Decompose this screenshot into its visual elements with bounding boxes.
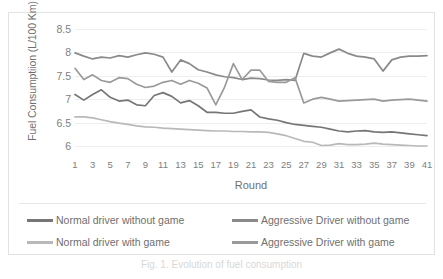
figure-caption: Fig. 1. Evolution of fuel consumption [0, 259, 443, 279]
x-tick-label: 9 [137, 159, 153, 171]
x-tick-label: 35 [366, 159, 382, 171]
x-tick-label: 3 [85, 159, 101, 171]
legend-label: Aggressive Driver without game [261, 214, 409, 226]
legend-swatch-icon [27, 241, 53, 244]
x-tick-label: 23 [261, 159, 277, 171]
x-tick-label: 29 [313, 159, 329, 171]
x-tick-label: 17 [208, 159, 224, 171]
legend-item-aggressive-without-game[interactable]: Aggressive Driver without game [232, 214, 427, 226]
x-tick-label: 21 [243, 159, 259, 171]
x-tick-label: 33 [349, 159, 365, 171]
y-tick-label: 7 [37, 94, 71, 104]
x-tick-label: 7 [120, 159, 136, 171]
x-tick-label: 31 [331, 159, 347, 171]
y-tick-label: 8.5 [37, 24, 71, 34]
x-tick-label: 13 [173, 159, 189, 171]
series-line [75, 90, 427, 136]
series-lines [75, 29, 427, 153]
chart-card: Fuel Consumptiion (L/100 Km) 8.587.576.5… [8, 12, 435, 255]
x-tick-label: 11 [155, 159, 171, 171]
chart-legend: Normal driver without game Aggressive Dr… [27, 209, 427, 253]
y-tick-label: 7.5 [37, 71, 71, 81]
figure-container: Fuel Consumptiion (L/100 Km) 8.587.576.5… [0, 0, 443, 279]
x-tick-label: 25 [278, 159, 294, 171]
legend-swatch-icon [232, 219, 258, 222]
x-tick-label: 19 [225, 159, 241, 171]
x-tick-label: 5 [102, 159, 118, 171]
y-tick-label: 6.5 [37, 118, 71, 128]
x-tick-label: 15 [190, 159, 206, 171]
x-axis-title: Round [75, 179, 427, 191]
legend-swatch-icon [232, 241, 258, 244]
x-tick-label: 39 [401, 159, 417, 171]
legend-label: Normal driver without game [56, 214, 184, 226]
legend-item-normal-without-game[interactable]: Normal driver without game [27, 214, 232, 226]
legend-swatch-icon [27, 219, 53, 222]
x-tick-label: 41 [419, 159, 435, 171]
x-tick-label: 1 [67, 159, 83, 171]
x-axis-tick-labels: 1357911131517192123252729313335373941 [75, 159, 427, 173]
plot-area [75, 29, 427, 153]
series-line [75, 64, 427, 105]
plot-wrapper: Fuel Consumptiion (L/100 Km) 8.587.576.5… [9, 13, 436, 256]
legend-label: Aggressive Driver with game [261, 236, 395, 248]
x-tick-label: 37 [384, 159, 400, 171]
y-tick-label: 6 [37, 141, 71, 151]
legend-item-aggressive-with-game[interactable]: Aggressive Driver with game [232, 236, 427, 248]
legend-item-normal-with-game[interactable]: Normal driver with game [27, 236, 232, 248]
legend-label: Normal driver with game [56, 236, 170, 248]
y-tick-label: 8 [37, 47, 71, 57]
series-line [75, 49, 427, 80]
legend-divider [19, 203, 426, 204]
x-tick-label: 27 [296, 159, 312, 171]
